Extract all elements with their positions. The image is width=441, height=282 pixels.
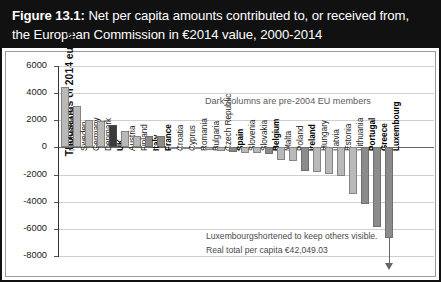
truncation-note-line2: Real total per capita €42,049.03 bbox=[206, 245, 328, 255]
figure-title: Figure 13.1: Net per capita amounts cont… bbox=[12, 6, 429, 44]
figure-container: Figure 13.1: Net per capita amounts cont… bbox=[0, 0, 441, 282]
truncation-note-line1: Luxembourgshortened to keep others visib… bbox=[206, 231, 378, 241]
legend-note: Dark columns are pre-2004 EU members bbox=[205, 96, 371, 106]
y-axis-title: Thousands of 2014 euros bbox=[64, 19, 75, 169]
